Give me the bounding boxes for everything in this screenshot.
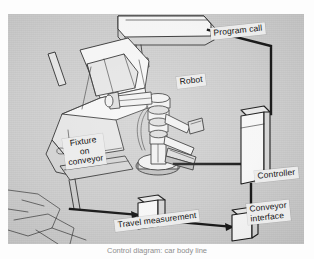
label-fixture-on-conveyor: Fixture on conveyor xyxy=(62,133,107,169)
scanned-page: .ln{fill:none;stroke:#1b1b1b;stroke-widt… xyxy=(0,0,314,259)
figure-caption: Control diagram: car body line xyxy=(0,246,314,258)
label-conveyor-interface: Conveyor interface xyxy=(246,199,291,224)
